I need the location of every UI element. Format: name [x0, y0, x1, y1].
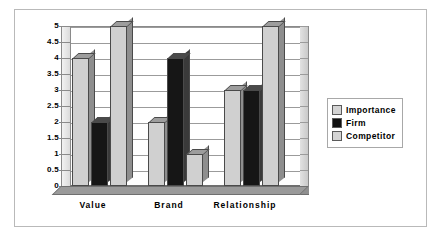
bar-importance-value: [72, 58, 89, 186]
bar-competitor-relationship: [262, 26, 279, 186]
bar-importance-brand: [148, 122, 165, 186]
x-axis-label-brand: Brand: [134, 200, 204, 210]
bar-competitor-value: [110, 26, 127, 186]
bar-firm-relationship: [243, 90, 260, 186]
gridline-right-wall: [300, 74, 308, 75]
bar-competitor-brand: [186, 154, 203, 186]
bar-front-face: [91, 122, 108, 186]
y-tick-label: 3.5: [47, 70, 59, 78]
chart-legend: ImportanceFirmCompetitor: [327, 98, 403, 148]
plot-right-wall: [300, 26, 309, 186]
gridline-right-wall: [300, 58, 308, 59]
bar-front-face: [148, 122, 165, 186]
x-axis-label-relationship: Relationship: [210, 200, 280, 210]
bar-side-face: [127, 17, 133, 182]
y-axis-labels: 54.543.532.521.510.50: [30, 26, 59, 186]
bar-side-face: [279, 17, 285, 182]
y-tick-label: 0.5: [47, 166, 59, 174]
legend-item-competitor: Competitor: [332, 130, 396, 142]
gridline-right-wall: [300, 90, 308, 91]
gridline-right-wall: [300, 170, 308, 171]
bar-front-face: [72, 58, 89, 186]
gridline-right-wall: [300, 42, 308, 43]
legend-swatch-icon: [332, 131, 342, 141]
bar-front-face: [262, 26, 279, 186]
legend-item-label: Firm: [346, 118, 366, 128]
legend-swatch-icon: [332, 105, 342, 115]
chart-plot-area: 54.543.532.521.510.50 ValueBrandRelation…: [0, 0, 443, 242]
bar-firm-brand: [167, 58, 184, 186]
bar-front-face: [224, 90, 241, 186]
bar-front-face: [110, 26, 127, 186]
bar-front-face: [243, 90, 260, 186]
y-tick-label: 2.5: [47, 102, 59, 110]
bar-front-face: [167, 58, 184, 186]
legend-item-importance: Importance: [332, 104, 396, 116]
bar-front-face: [186, 154, 203, 186]
gridline-right-wall: [300, 106, 308, 107]
y-tick-label: 4.5: [47, 38, 59, 46]
x-axis-label-value: Value: [58, 200, 128, 210]
gridline-right-wall: [300, 138, 308, 139]
y-tick-label: 1.5: [47, 134, 59, 142]
bar-importance-relationship: [224, 90, 241, 186]
plot-floor-lip: [52, 186, 309, 195]
gridline-right-wall: [300, 26, 308, 27]
legend-item-firm: Firm: [332, 117, 396, 129]
legend-swatch-icon: [332, 118, 342, 128]
bar-firm-value: [91, 122, 108, 186]
legend-item-label: Importance: [346, 105, 396, 115]
gridline-right-wall: [300, 122, 308, 123]
gridline-right-wall: [300, 154, 308, 155]
legend-item-label: Competitor: [346, 131, 395, 141]
